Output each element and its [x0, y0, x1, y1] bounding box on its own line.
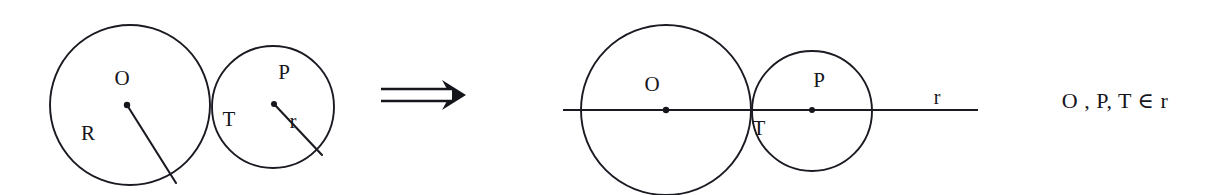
- left-small-circle-radius-segment: [274, 104, 322, 155]
- right-big-circle-center-dot: [663, 107, 669, 113]
- right-big-circle-center-label: O: [644, 74, 659, 95]
- line-of-centers-label: r: [934, 87, 941, 107]
- left-big-circle-radius-label: R: [81, 123, 95, 144]
- left-diagram: [50, 25, 334, 185]
- left-small-circle-radius-label: r: [290, 111, 297, 131]
- right-small-circle-center-dot: [809, 107, 815, 113]
- figure-canvas: [0, 0, 1230, 195]
- right-diagram: [563, 25, 978, 195]
- left-small-circle-center-label: P: [278, 62, 290, 83]
- left-big-circle-center-label: O: [114, 68, 129, 89]
- implication-arrow: [381, 80, 466, 110]
- left-big-circle-radius-segment: [127, 105, 176, 183]
- membership-formula: O , P, T ∈ r: [1062, 88, 1168, 114]
- geometry-figure: O R P T r O P T r O , P, T ∈ r: [0, 0, 1230, 195]
- left-big-circle-center-dot: [124, 102, 130, 108]
- right-small-circle-center-label: P: [813, 70, 825, 91]
- arrow-head-icon: [442, 80, 466, 110]
- left-small-circle-center-dot: [271, 101, 277, 107]
- left-tangency-point-label: T: [223, 109, 236, 130]
- right-tangency-point-label: T: [753, 118, 766, 139]
